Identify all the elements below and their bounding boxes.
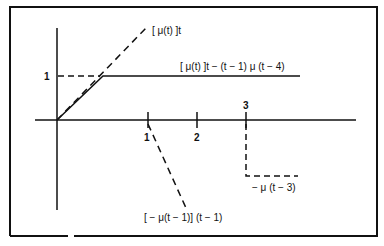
x-tick-label-2: 2 (194, 132, 200, 143)
axes (35, 28, 356, 210)
result-label: [ μ(t) ]t − (t − 1) μ (t − 4) (180, 61, 285, 72)
frame (9, 7, 378, 236)
x-tick-label-1: 1 (144, 132, 150, 143)
ramp-label: [ μ(t) ]t (152, 25, 181, 36)
negative-ramp-curve (148, 124, 186, 208)
negative-step-curve (246, 124, 298, 176)
signal-diagram: 1 2 3 1 [ μ(t) ]t [ μ(t) ]t − (t − 1) μ … (0, 0, 384, 246)
negative-ramp-label: [ − μ(t − 1)] (t − 1) (144, 212, 222, 223)
y-tick-label-1: 1 (44, 71, 50, 82)
x-tick-label-3: 3 (243, 100, 249, 111)
negative-step-label: − μ (t − 3) (252, 182, 296, 193)
